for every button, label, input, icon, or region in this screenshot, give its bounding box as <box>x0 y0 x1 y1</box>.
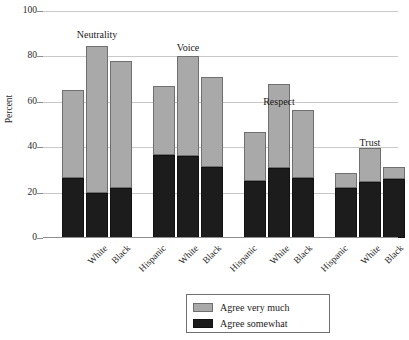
bar-segment-agree-somewhat <box>292 178 314 238</box>
bar <box>177 56 199 238</box>
x-axis-line <box>43 237 398 238</box>
bar-segment-agree-somewhat <box>244 181 266 238</box>
group-title: Voice <box>177 43 200 53</box>
bar <box>86 46 108 238</box>
bar-segment-agree-very-much <box>335 173 357 188</box>
group-title: Trust <box>360 138 381 148</box>
bar-segment-agree-somewhat <box>62 178 84 238</box>
legend-item-somewhat: Agree somewhat <box>193 316 287 330</box>
bar-chart: Percent 020406080100 NeutralityVoiceResp… <box>0 0 409 340</box>
bar-segment-agree-somewhat <box>335 188 357 238</box>
x-axis-tick-label: Black <box>200 243 223 266</box>
legend: Agree very much Agree somewhat <box>186 294 330 333</box>
bar-segment-agree-very-much <box>292 110 314 178</box>
bar <box>62 90 84 238</box>
bar <box>359 148 381 238</box>
x-axis-tick-label: Black <box>109 243 132 266</box>
bar <box>153 86 175 238</box>
x-axis-tick-label: Black <box>382 243 405 266</box>
y-axis-tick-mark <box>37 238 43 239</box>
x-axis-tick-label: Hispanic <box>228 243 259 274</box>
bar-segment-agree-very-much <box>62 90 84 177</box>
bar <box>292 110 314 238</box>
bar-segment-agree-somewhat <box>268 168 290 238</box>
bar-segment-agree-very-much <box>110 61 132 188</box>
group-title: Neutrality <box>77 30 118 40</box>
bar <box>383 167 405 239</box>
group-title: Respect <box>263 97 295 107</box>
legend-label-somewhat: Agree somewhat <box>220 318 287 329</box>
bar-segment-agree-somewhat <box>110 188 132 238</box>
bar-segment-agree-somewhat <box>177 156 199 238</box>
bar-segment-agree-somewhat <box>86 193 108 238</box>
x-axis-tick-label: White <box>177 243 200 266</box>
legend-item-very-much: Agree very much <box>193 300 289 314</box>
bar-segment-agree-somewhat <box>201 167 223 239</box>
y-axis-tick-marks <box>0 11 43 238</box>
x-axis-tick-label: White <box>86 243 109 266</box>
bar <box>201 77 223 238</box>
legend-label-very-much: Agree very much <box>220 302 289 313</box>
bar-segment-agree-somewhat <box>383 179 405 238</box>
x-axis-tick-label: Hispanic <box>319 243 350 274</box>
bar-segment-agree-very-much <box>383 167 405 179</box>
bar-segment-agree-very-much <box>244 132 266 181</box>
bar-segment-agree-very-much <box>359 148 381 182</box>
legend-swatch-somewhat-icon <box>193 319 213 328</box>
bar <box>110 61 132 238</box>
bar <box>335 173 357 238</box>
x-axis-tick-label: White <box>359 243 382 266</box>
bar-segment-agree-somewhat <box>359 182 381 238</box>
x-axis-tick-label: White <box>268 243 291 266</box>
bar <box>244 132 266 238</box>
x-axis-tick-label: Hispanic <box>137 243 168 274</box>
bar-segment-agree-very-much <box>201 77 223 167</box>
legend-swatch-very-much-icon <box>193 303 213 312</box>
bar-segment-agree-very-much <box>153 86 175 155</box>
plot-area <box>43 11 398 238</box>
bar-segment-agree-somewhat <box>153 155 175 238</box>
bar-segment-agree-very-much <box>177 56 199 156</box>
x-axis-tick-label: Black <box>291 243 314 266</box>
gridline <box>43 11 398 12</box>
bar-segment-agree-very-much <box>86 46 108 192</box>
